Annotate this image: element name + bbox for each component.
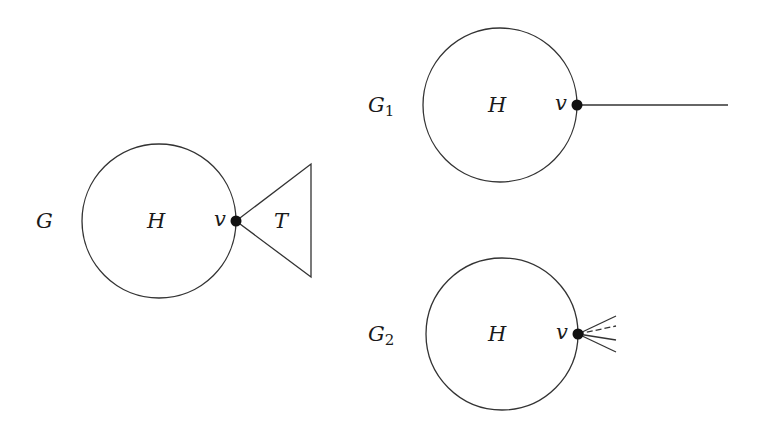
- subgraph-label-h: H: [488, 324, 506, 345]
- graph-name: G: [368, 322, 385, 346]
- tree-label-t: T: [274, 211, 288, 232]
- fan-edge-1: [578, 316, 616, 334]
- graph-g2: [426, 258, 616, 410]
- graph-subscript: 2: [385, 331, 395, 349]
- graph-label-g: G: [36, 211, 53, 232]
- subgraph-label-h: H: [488, 95, 506, 116]
- cut-vertex-v: [573, 329, 584, 340]
- graph-label-g1: G1: [368, 95, 394, 119]
- vertex-label-v: v: [556, 322, 568, 343]
- cut-vertex-v: [572, 100, 583, 111]
- graph-diagram: G H v T G1 H v G2 H v: [0, 0, 763, 434]
- graph-label-g2: G2: [368, 324, 394, 348]
- subgraph-label-h: H: [147, 211, 165, 232]
- vertex-label-v: v: [214, 209, 226, 230]
- graph-subscript: 1: [385, 102, 395, 120]
- graph-name: G: [368, 93, 385, 117]
- fan-edge-2: [578, 326, 616, 334]
- cut-vertex-v: [231, 216, 242, 227]
- graph-g1: [423, 28, 728, 182]
- graph-name: G: [36, 209, 53, 233]
- vertex-label-v: v: [555, 93, 567, 114]
- diagram-svg: [0, 0, 763, 434]
